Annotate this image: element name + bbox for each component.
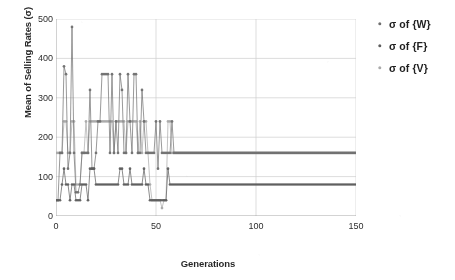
y-axis-tick-labels: 0100200300400500 <box>26 0 53 280</box>
series-ofW <box>56 26 356 202</box>
legend-item-1[interactable]: σ of {F} <box>375 35 455 57</box>
x-axis-title: Generations <box>88 258 328 269</box>
legend-marker-icon <box>375 20 384 29</box>
chart-legend: σ of {W}σ of {F}σ of {V} <box>375 13 455 79</box>
gridlines <box>56 19 356 216</box>
legend-marker-icon <box>375 64 384 73</box>
x-tick-100: 100 <box>236 221 276 231</box>
axis-lines <box>56 19 356 216</box>
chart-figure: Mean of Selling Rates (σ) 01002003004005… <box>0 0 455 280</box>
legend-item-label: σ of {W} <box>389 18 431 30</box>
series-ofF <box>56 167 356 201</box>
x-tick-50: 50 <box>136 221 176 231</box>
y-tick-100: 100 <box>27 172 53 182</box>
y-tick-0: 0 <box>27 211 53 221</box>
x-tick-0: 0 <box>36 221 76 231</box>
legend-marker-icon <box>375 42 384 51</box>
y-tick-400: 400 <box>27 53 53 63</box>
y-tick-500: 500 <box>27 14 53 24</box>
legend-item-label: σ of {V} <box>389 62 428 74</box>
x-tick-150: 150 <box>336 221 376 231</box>
legend-item-2[interactable]: σ of {V} <box>375 57 455 79</box>
series-ofV <box>56 120 356 209</box>
y-tick-200: 200 <box>27 132 53 142</box>
plot-canvas <box>56 19 356 216</box>
plot-area <box>56 19 356 216</box>
y-tick-300: 300 <box>27 93 53 103</box>
legend-item-0[interactable]: σ of {W} <box>375 13 455 35</box>
x-axis-tick-labels: 050100150 <box>0 221 455 235</box>
legend-item-label: σ of {F} <box>389 40 427 52</box>
